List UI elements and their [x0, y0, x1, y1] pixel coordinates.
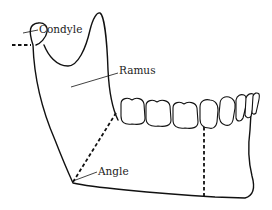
- teeth: [121, 93, 259, 128]
- mandible-diagram: Condyle Ramus Angle: [0, 0, 272, 210]
- angle-label: Angle: [97, 165, 129, 177]
- condyle-label: Condyle: [39, 23, 82, 35]
- ramus-label: Ramus: [119, 64, 156, 76]
- ramus-leader-line: [71, 73, 118, 87]
